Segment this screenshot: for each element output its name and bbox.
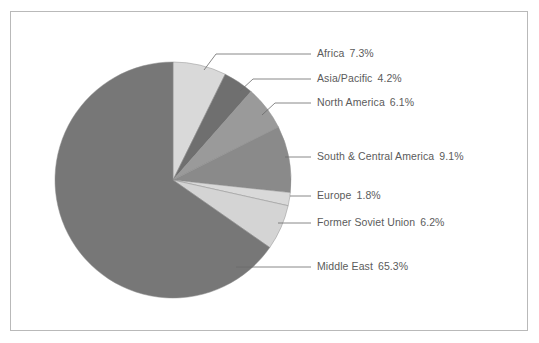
pie-chart-figure: Africa7.3% Asia/Pacific4.2% North Americ… xyxy=(0,0,539,343)
slice-label-europe: Europe1.8% xyxy=(317,189,381,201)
slice-label-africa-value: 7.3% xyxy=(349,47,373,59)
slice-label-south-central-america-value: 9.1% xyxy=(439,150,463,162)
slice-label-former-soviet-union: Former Soviet Union6.2% xyxy=(317,216,445,228)
leader-line-asia-pacific xyxy=(240,79,311,91)
slice-label-former-soviet-union-name: Former Soviet Union xyxy=(317,216,415,228)
slice-label-south-central-america: South & Central America9.1% xyxy=(317,150,464,162)
slice-label-africa: Africa7.3% xyxy=(317,47,374,59)
slice-label-europe-value: 1.8% xyxy=(356,189,380,201)
slice-label-middle-east-value: 65.3% xyxy=(378,260,408,272)
pie-slice-group xyxy=(55,62,291,298)
slice-label-north-america-value: 6.1% xyxy=(390,96,414,108)
slice-label-north-america-name: North America xyxy=(317,96,385,108)
slice-label-asia-pacific-name: Asia/Pacific xyxy=(317,72,372,84)
slice-label-europe-name: Europe xyxy=(317,189,351,201)
slice-label-south-central-america-name: South & Central America xyxy=(317,150,434,162)
leader-line-africa xyxy=(204,54,311,70)
slice-label-asia-pacific: Asia/Pacific4.2% xyxy=(317,72,402,84)
slice-label-north-america: North America6.1% xyxy=(317,96,414,108)
slice-label-former-soviet-union-value: 6.2% xyxy=(420,216,444,228)
slice-label-africa-name: Africa xyxy=(317,47,344,59)
slice-label-middle-east-name: Middle East xyxy=(317,260,373,272)
pie-chart-graphic xyxy=(0,0,539,343)
slice-label-middle-east: Middle East65.3% xyxy=(317,260,408,272)
slice-label-asia-pacific-value: 4.2% xyxy=(377,72,401,84)
